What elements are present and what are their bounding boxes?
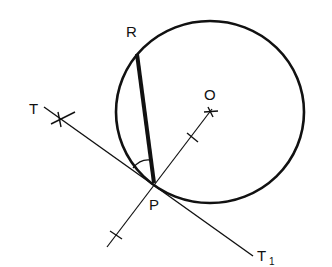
label-r: R bbox=[126, 23, 137, 40]
label-t: T bbox=[29, 100, 38, 117]
label-t1-subscript: 1 bbox=[269, 256, 275, 267]
tangent-chord-diagram: R O T P T 1 bbox=[0, 0, 332, 267]
label-t1: T bbox=[257, 247, 266, 264]
radius-line bbox=[107, 109, 212, 247]
o-center-mark bbox=[204, 107, 218, 117]
chord-pr bbox=[137, 54, 154, 183]
label-p: P bbox=[149, 196, 159, 213]
label-o: O bbox=[204, 86, 216, 103]
tick-mark-lower bbox=[110, 231, 122, 239]
